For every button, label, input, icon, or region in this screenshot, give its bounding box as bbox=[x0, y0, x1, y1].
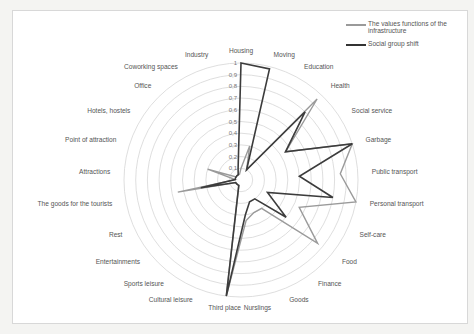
category-label: Hotels, hostels bbox=[87, 107, 131, 114]
grid-ring bbox=[171, 110, 311, 250]
category-label: Office bbox=[134, 82, 151, 89]
category-label: Public transport bbox=[372, 168, 418, 176]
legend: The values functions of the infrastructu… bbox=[346, 20, 466, 53]
category-label: Nurslings bbox=[244, 304, 272, 312]
legend-label: The values functions of the infrastructu… bbox=[368, 20, 466, 34]
category-label: Education bbox=[304, 63, 334, 70]
category-label: Garbage bbox=[366, 136, 392, 144]
grid-ring bbox=[194, 133, 288, 227]
category-label: Finance bbox=[318, 280, 342, 287]
category-label: Moving bbox=[274, 51, 296, 59]
legend-line-dark bbox=[346, 44, 366, 46]
axis-tick: 0,4 bbox=[229, 130, 238, 136]
axis-tick: 0,1 bbox=[229, 165, 238, 171]
axis-tick: 0,8 bbox=[229, 83, 238, 89]
axis-tick: 0,3 bbox=[229, 142, 238, 148]
axis-tick: 0,2 bbox=[229, 154, 238, 160]
category-label: Entertainments bbox=[96, 258, 141, 265]
legend-item-values-functions: The values functions of the infrastructu… bbox=[346, 20, 466, 34]
category-label: Third place bbox=[208, 304, 241, 312]
category-label: Food bbox=[342, 258, 357, 265]
grid-ring bbox=[136, 75, 347, 286]
axis-tick: 0,9 bbox=[229, 72, 238, 78]
legend-item-social-group-shift: Social group shift bbox=[346, 40, 466, 47]
axis-tick: 0,6 bbox=[229, 107, 238, 113]
category-label: Coworking spaces bbox=[124, 63, 179, 71]
category-label: Goods bbox=[289, 296, 309, 303]
legend-label: Social group shift bbox=[368, 40, 419, 47]
category-label: Social service bbox=[352, 107, 393, 114]
category-label: Health bbox=[331, 82, 350, 89]
grid-ring bbox=[218, 157, 265, 204]
axis-tick: 0,5 bbox=[229, 119, 238, 125]
category-label: Housing bbox=[229, 47, 254, 55]
category-label: Sports leisure bbox=[124, 280, 165, 288]
axis-tick: 0,7 bbox=[229, 95, 238, 101]
series-social-group-shift bbox=[201, 63, 352, 296]
category-label: Cultural leisure bbox=[149, 296, 193, 303]
category-label: Rest bbox=[109, 231, 123, 238]
category-label: Self-care bbox=[360, 231, 387, 238]
legend-line-grey bbox=[346, 24, 366, 26]
category-label: Industry bbox=[185, 51, 209, 59]
category-label: Personal transport bbox=[370, 200, 424, 208]
category-label: The goods for the tourists bbox=[38, 200, 113, 208]
category-label: Attractions bbox=[79, 168, 111, 175]
category-label: Point of attraction bbox=[65, 136, 117, 143]
